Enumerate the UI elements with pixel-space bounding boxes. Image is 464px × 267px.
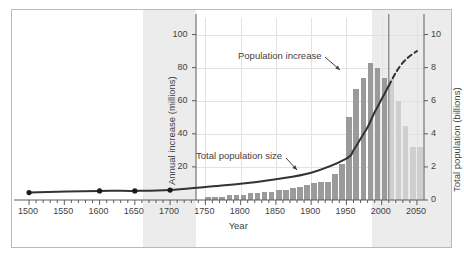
y-left-tick-label: 100 [172,29,187,39]
x-tick-label: 1550 [53,206,73,216]
x-tick-label: 1900 [300,206,320,216]
x-tick-label: 1500 [18,206,38,216]
annotation-population-increase: Population increase [238,50,321,61]
y-right-tick-label: 4 [431,128,436,138]
leader-population-increase [325,57,340,70]
x-tick-label: 2050 [406,206,426,216]
x-tick-label: 2000 [371,206,391,216]
data-point-marker [26,190,31,195]
x-tick-label: 1700 [159,206,179,216]
x-tick-label: 1650 [124,206,144,216]
x-tick-label: 1800 [230,206,250,216]
x-tick-label: 1950 [335,206,355,216]
total-population-line-projected [389,51,417,86]
y-right-tick-label: 8 [431,62,436,72]
population-chart-figure: 1500155016001650170017501800185019001950… [0,0,464,267]
y-right-tick-label: 2 [431,161,436,171]
y-left-tick-label: 80 [178,62,188,72]
data-point-marker [97,188,102,193]
x-tick-label: 1750 [194,206,214,216]
data-point-marker [132,188,137,193]
y-right-axis-title: Total population (billions) [451,87,462,192]
leader-total-population-size [286,158,297,170]
y-right-tick-label: 0 [431,194,436,204]
x-tick-label: 1850 [265,206,285,216]
y-left-tick-label: 20 [178,161,188,171]
y-right-tick-label: 10 [431,29,441,39]
y-left-axis-title: Annual increase (millions) [166,76,177,185]
y-left-tick-label: 40 [178,128,188,138]
data-point-marker [168,187,173,192]
y-right-tick-label: 6 [431,95,436,105]
y-left-tick-label: 60 [178,95,188,105]
total-population-line [29,86,389,193]
x-tick-label: 1600 [89,206,109,216]
x-axis-title: Year [229,220,248,231]
annotation-total-population-size: Total population size [196,150,282,161]
